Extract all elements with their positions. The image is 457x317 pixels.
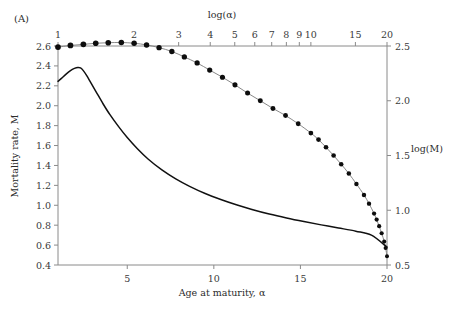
right-tick-label: 1.0 — [395, 205, 410, 216]
left-tick-label: 0.4 — [36, 260, 51, 271]
top-tick-label: 1 — [55, 29, 61, 40]
right-axis-ticks: 0.51.01.52.02.5 — [387, 41, 410, 271]
left-tick-label: 1.8 — [36, 120, 51, 131]
right-tick-label: 2.0 — [395, 95, 410, 106]
panel-label: (A) — [14, 13, 29, 24]
data-point-marker — [220, 75, 225, 80]
data-point-marker — [81, 42, 87, 48]
left-tick-label: 0.8 — [36, 220, 51, 231]
data-point-marker — [258, 98, 263, 103]
data-point-marker — [119, 40, 125, 46]
data-point-marker — [385, 254, 389, 258]
left-tick-label: 2.6 — [36, 41, 51, 52]
chart-canvas: (A) 123456789101520 5101520 0.40.60.81.0… — [0, 0, 457, 317]
bottom-axis-ticks: 5101520 — [124, 265, 393, 284]
figure-panel-a: (A) 123456789101520 5101520 0.40.60.81.0… — [0, 0, 457, 317]
top-tick-label: 2 — [131, 29, 137, 40]
right-axis-title: log(M) — [411, 143, 443, 154]
data-point-marker — [169, 49, 174, 54]
top-axis-title: log(α) — [208, 9, 237, 20]
right-tick-label: 0.5 — [395, 260, 410, 271]
left-tick-label: 1.4 — [36, 160, 51, 171]
data-point-marker — [380, 231, 384, 235]
left-tick-label: 1.6 — [36, 140, 51, 151]
data-point-marker — [105, 40, 111, 46]
series-solid-curve — [58, 67, 387, 247]
bottom-tick-label: 20 — [381, 273, 393, 284]
data-point-marker — [55, 44, 61, 50]
top-tick-label: 5 — [232, 29, 238, 40]
left-tick-label: 2.0 — [36, 100, 51, 111]
data-point-marker — [362, 193, 366, 197]
left-axis-ticks: 0.40.60.81.01.21.41.61.82.02.22.42.6 — [36, 41, 58, 271]
data-series-layer — [55, 40, 389, 259]
series-marker-curve — [55, 40, 389, 259]
data-point-marker — [308, 131, 313, 136]
data-point-marker — [375, 217, 379, 221]
data-point-marker — [195, 60, 200, 65]
data-point-marker — [296, 121, 301, 126]
data-point-marker — [316, 137, 321, 142]
data-point-marker — [93, 40, 99, 46]
data-point-marker — [207, 68, 212, 73]
left-tick-label: 1.2 — [36, 180, 51, 191]
left-axis-title: Mortality rate, M — [9, 114, 20, 197]
bottom-tick-label: 15 — [294, 273, 306, 284]
top-tick-label: 10 — [305, 29, 317, 40]
data-point-marker — [324, 145, 329, 150]
data-point-marker — [182, 54, 187, 59]
top-tick-label: 8 — [283, 29, 289, 40]
left-tick-label: 2.4 — [36, 60, 51, 71]
data-point-marker — [347, 171, 352, 176]
data-point-marker — [270, 106, 275, 111]
data-point-marker — [339, 162, 344, 167]
data-point-marker — [144, 42, 149, 47]
data-point-marker — [354, 182, 358, 186]
data-point-marker — [156, 45, 161, 50]
data-point-marker — [232, 82, 237, 87]
data-point-marker — [283, 113, 288, 118]
top-tick-label: 3 — [176, 29, 182, 40]
data-point-marker — [372, 211, 376, 215]
data-point-marker — [68, 43, 74, 49]
bottom-tick-label: 10 — [208, 273, 220, 284]
right-tick-label: 1.5 — [395, 150, 410, 161]
top-tick-label: 9 — [296, 29, 302, 40]
data-point-marker — [245, 91, 250, 96]
top-tick-label: 7 — [269, 29, 275, 40]
series-path — [58, 42, 387, 256]
left-tick-label: 1.0 — [36, 200, 51, 211]
bottom-axis-title: Age at maturity, α — [178, 287, 266, 298]
data-point-marker — [377, 224, 381, 228]
top-tick-label: 15 — [349, 29, 361, 40]
left-tick-label: 2.2 — [36, 80, 51, 91]
data-point-marker — [367, 202, 371, 206]
right-tick-label: 2.5 — [395, 41, 410, 52]
top-tick-label: 20 — [381, 29, 393, 40]
top-tick-label: 4 — [207, 29, 213, 40]
data-point-marker — [331, 153, 336, 158]
data-point-marker — [131, 41, 137, 47]
series-path — [58, 67, 387, 247]
bottom-tick-label: 5 — [124, 273, 130, 284]
top-tick-label: 6 — [252, 29, 258, 40]
left-tick-label: 0.6 — [36, 240, 51, 251]
